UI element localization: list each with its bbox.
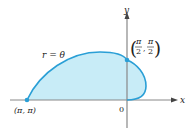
x-axis-label: x [180,95,185,105]
origin-label: 0 [119,105,124,114]
x-axis-arrow-icon [171,98,178,103]
curve-label: r = θ [42,50,66,60]
svg-text:): ) [154,38,161,59]
svg-text:,: , [143,44,146,53]
svg-text:π: π [147,37,154,46]
polar-curve-diagram: r = θ x y 0 (π, π) ( π 2 , π 2 ) [0,0,192,128]
point-pi2-pi2-label: ( π 2 , π 2 ) [130,37,161,59]
point-pi-pi [25,98,30,103]
y-axis-label: y [123,5,130,15]
point-pi2-pi2 [125,58,130,63]
svg-text:π: π [135,37,142,46]
point-pi-pi-label: (π, π) [14,106,36,115]
svg-text:2: 2 [136,47,141,56]
svg-text:2: 2 [148,47,153,56]
